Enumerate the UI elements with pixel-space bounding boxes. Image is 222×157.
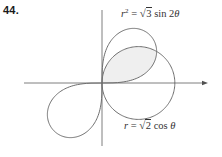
shaded-intersection-region <box>102 47 157 83</box>
equals: = <box>128 120 139 131</box>
theta: θ <box>174 8 179 19</box>
circle-equation-label: r = √2 cos θ <box>124 119 175 131</box>
polar-figure <box>0 0 222 157</box>
cos-text: cos <box>151 120 170 131</box>
sqrt-2: √2 <box>139 119 151 131</box>
x-axis-arrowhead <box>202 81 208 85</box>
theta: θ <box>170 120 175 131</box>
equals: = <box>129 8 140 19</box>
lemniscate-equation-label: r2 = √3 sin 2θ <box>121 7 180 19</box>
sqrt-3: √3 <box>140 7 152 19</box>
sin-text: sin 2 <box>152 8 175 19</box>
